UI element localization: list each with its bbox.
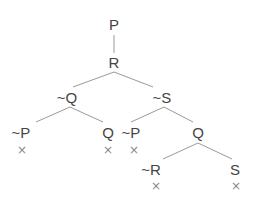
tree-edge	[164, 107, 193, 122]
tree-node-n9: ~R	[141, 161, 161, 178]
closed-branch-x-icon: ×	[151, 179, 161, 193]
tree-edge	[131, 107, 164, 122]
tree-edge	[73, 72, 114, 87]
tree-node-n6: Q	[102, 124, 114, 141]
tree-edge	[36, 107, 70, 122]
closed-branch-x-icon: ×	[103, 143, 113, 157]
tree-node-n7: ~P	[122, 124, 141, 141]
truth-tree-diagram: PR~Q~S~PQ~PQ~RS ×××××	[0, 0, 253, 204]
tree-nodes: PR~Q~S~PQ~PQ~RS	[12, 16, 240, 178]
tree-node-n10: S	[230, 161, 240, 178]
closed-branch-x-icon: ×	[129, 143, 139, 157]
tree-edge	[163, 143, 198, 159]
tree-edge	[198, 143, 232, 159]
closed-branch-x-icon: ×	[231, 179, 241, 193]
tree-node-n1: P	[109, 16, 119, 33]
tree-node-n3: ~Q	[57, 89, 77, 106]
tree-node-n4: ~S	[153, 89, 172, 106]
closed-branch-x-icon: ×	[17, 143, 27, 157]
closed-branch-marks: ×××××	[17, 143, 241, 193]
tree-edge	[70, 107, 103, 122]
tree-node-n2: R	[109, 54, 120, 71]
tree-node-n8: Q	[192, 124, 204, 141]
tree-node-n5: ~P	[12, 124, 31, 141]
tree-edge	[114, 72, 153, 87]
